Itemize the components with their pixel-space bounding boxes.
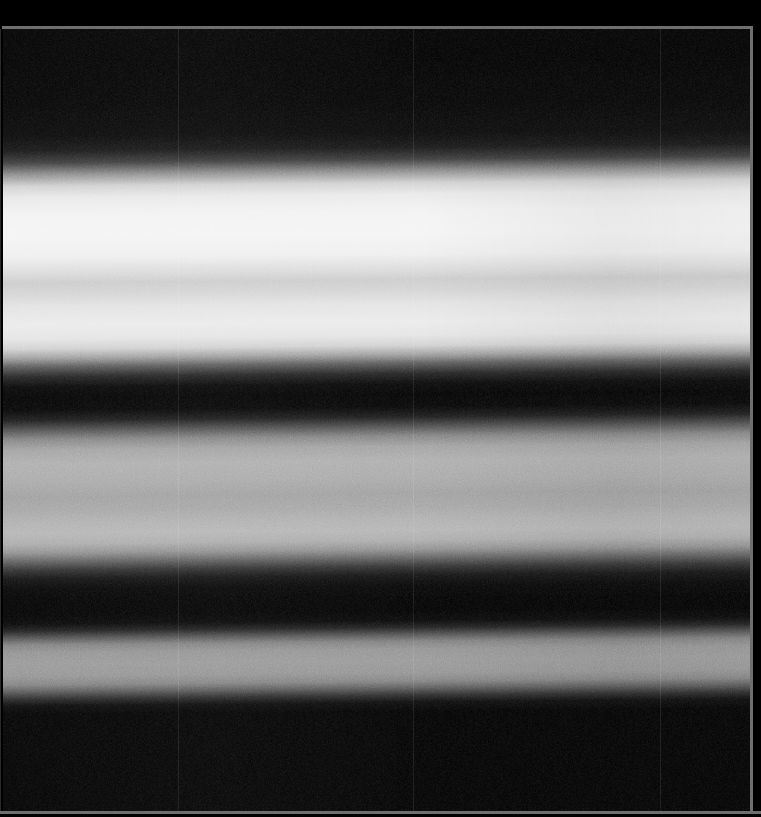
frame-right-border [750,26,753,814]
frame-left-border [0,29,1,811]
spectral-raster-plate[interactable] [3,29,750,811]
frame-bottom-border [0,811,761,814]
top-margin-mask [0,0,761,26]
band-horizontal-shading [3,29,750,811]
image-viewport[interactable] [0,0,761,817]
band-stack [3,29,750,811]
